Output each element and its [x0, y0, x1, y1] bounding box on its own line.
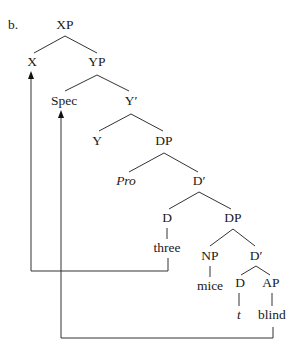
node-Y-bar: Y′: [125, 93, 138, 108]
node-Spec: Spec: [51, 93, 77, 108]
syntax-tree-figure: b.: [0, 0, 297, 356]
leaf-mice: mice: [197, 278, 223, 293]
edge-Dbar2-D2: [241, 266, 256, 275]
edge-Ybar-DP: [131, 114, 163, 131]
edge-DP2-Dbar2: [233, 229, 255, 246]
node-X: X: [27, 54, 37, 69]
edge-XP-X: [34, 36, 65, 53]
edge-DP2-NP: [210, 229, 233, 246]
node-XP: XP: [56, 17, 73, 32]
movement-arrows: [28, 71, 273, 338]
movement-blind-to-Spec: [61, 117, 273, 338]
edge-DP-Pro: [129, 153, 164, 172]
node-DP-lower: DP: [224, 210, 241, 225]
edge-YP-Spec: [65, 75, 97, 91]
tree-svg: b.: [0, 0, 297, 356]
node-D-bar-lower: D′: [250, 248, 263, 263]
node-Y: Y: [92, 133, 102, 148]
node-D-bar: D′: [193, 173, 206, 188]
arrowhead-to-X-icon: [28, 71, 34, 79]
arrowhead-to-Spec-icon: [58, 110, 64, 118]
edge-Dbar-DP2: [199, 192, 231, 209]
node-DP: DP: [155, 133, 172, 148]
edge-DP-Dbar: [164, 153, 198, 172]
node-D: D: [162, 210, 172, 225]
node-AP: AP: [262, 275, 279, 290]
edge-Dbar2-AP: [256, 266, 270, 275]
edge-YP-Ybar: [97, 75, 129, 91]
example-label: b.: [8, 17, 18, 32]
leaf-blind: blind: [258, 307, 286, 322]
tree-edges: [34, 36, 272, 306]
edge-Ybar-Y: [99, 114, 131, 131]
node-D-lower: D: [235, 275, 245, 290]
leaf-trace-t: t: [237, 307, 242, 322]
node-Pro: Pro: [115, 173, 136, 188]
node-YP: YP: [88, 54, 105, 69]
tree-nodes: XP X YP Spec Y′ Y DP Pro D′ D DP three N…: [27, 17, 286, 322]
leaf-three: three: [154, 240, 181, 255]
edge-Dbar-D: [169, 192, 199, 209]
node-NP: NP: [201, 248, 218, 263]
edge-XP-YP: [65, 36, 97, 53]
